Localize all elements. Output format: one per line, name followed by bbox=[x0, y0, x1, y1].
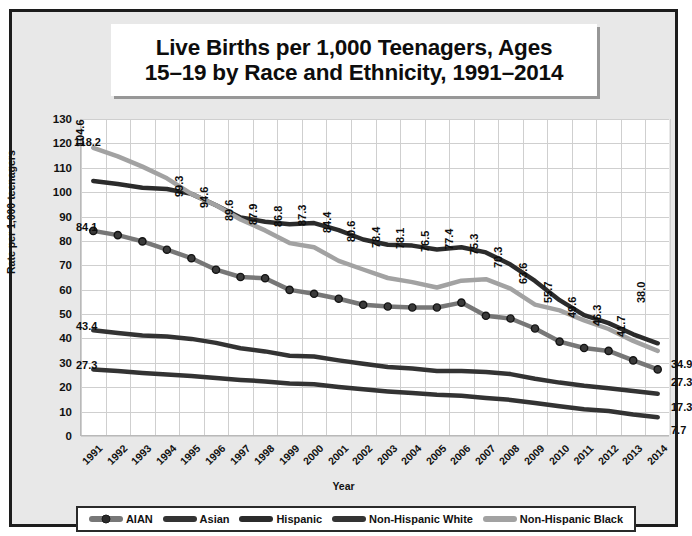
x-tick-label: 1999 bbox=[271, 442, 301, 472]
x-tick-label: 1994 bbox=[149, 442, 179, 472]
data-point-marker bbox=[605, 347, 612, 354]
legend-item-aian[interactable]: AIAN bbox=[89, 513, 153, 525]
y-tick-label: 110 bbox=[34, 162, 72, 174]
data-label-nh-white-start: 27.3 bbox=[76, 359, 97, 371]
data-point-marker bbox=[630, 357, 637, 364]
x-tick-label: 2010 bbox=[541, 442, 571, 472]
data-label-nh-black-end: 34.9 bbox=[671, 358, 692, 370]
data-label-hispanic: 78.1 bbox=[394, 227, 406, 248]
line-asian bbox=[93, 330, 657, 394]
x-tick-label: 2012 bbox=[590, 442, 620, 472]
data-label-hispanic: 80.6 bbox=[345, 221, 357, 242]
data-label-aian-end: 27.3 bbox=[671, 376, 692, 388]
data-label-hispanic: 78.4 bbox=[370, 226, 382, 247]
data-point-marker bbox=[360, 301, 367, 308]
legend-swatch bbox=[332, 516, 366, 522]
data-point-marker bbox=[507, 315, 514, 322]
y-axis-title: Rate per 1,000 teenagers bbox=[5, 150, 17, 274]
data-label-asian-start: 43.4 bbox=[76, 320, 97, 332]
y-tick-label: 10 bbox=[34, 406, 72, 418]
data-label-hispanic: 77.4 bbox=[443, 229, 455, 250]
x-tick-label: 2002 bbox=[345, 442, 375, 472]
data-point-marker bbox=[458, 299, 465, 306]
data-label-nh-black-start: 118.2 bbox=[74, 136, 101, 148]
data-point-marker bbox=[433, 304, 440, 311]
x-axis-title: Year bbox=[12, 480, 675, 492]
data-point-marker bbox=[409, 304, 416, 311]
data-label-hispanic: 87.9 bbox=[247, 203, 259, 224]
data-label-asian-end: 17.3 bbox=[671, 401, 692, 413]
data-label-hispanic: 38.0 bbox=[635, 282, 647, 303]
line-non-hispanic-white bbox=[93, 369, 657, 417]
data-point-marker bbox=[556, 338, 563, 345]
legend-item-hispanic[interactable]: Hispanic bbox=[239, 513, 322, 525]
legend-item-asian[interactable]: Asian bbox=[163, 513, 230, 525]
x-tick-label: 1993 bbox=[124, 442, 154, 472]
data-label-hispanic: 55.7 bbox=[542, 282, 554, 303]
y-tick-label: 0 bbox=[34, 430, 72, 442]
x-tick-label: 2013 bbox=[615, 442, 645, 472]
data-point-marker bbox=[114, 232, 121, 239]
data-point-marker bbox=[311, 290, 318, 297]
x-tick-label: 1998 bbox=[247, 442, 277, 472]
legend-swatch bbox=[239, 516, 273, 522]
data-point-marker bbox=[531, 325, 538, 332]
y-tick-label: 130 bbox=[34, 113, 72, 125]
data-label-hispanic: 86.8 bbox=[272, 206, 284, 227]
data-point-marker bbox=[384, 303, 391, 310]
x-tick-label: 2011 bbox=[566, 442, 596, 472]
series-lines bbox=[81, 119, 670, 436]
data-point-marker bbox=[237, 273, 244, 280]
legend-swatch bbox=[483, 516, 517, 522]
y-tick-label: 100 bbox=[34, 186, 72, 198]
data-label-hispanic: 94.6 bbox=[198, 187, 210, 208]
plot-area bbox=[80, 119, 669, 436]
chart-legend: AIANAsianHispanicNon-Hispanic WhiteNon-H… bbox=[76, 506, 636, 532]
data-point-marker bbox=[188, 255, 195, 262]
x-tick-label: 1995 bbox=[173, 442, 203, 472]
legend-label: Hispanic bbox=[276, 513, 322, 525]
data-label-hispanic: 70.3 bbox=[492, 246, 504, 267]
data-label-hispanic: 75.3 bbox=[468, 234, 480, 255]
legend-label: AIAN bbox=[126, 513, 153, 525]
data-label-hispanic: 41.7 bbox=[615, 316, 627, 337]
data-label-hispanic: 99.3 bbox=[173, 175, 185, 196]
y-tick-label: 70 bbox=[34, 259, 72, 271]
x-tick-label: 2004 bbox=[394, 442, 424, 472]
x-tick-label: 2001 bbox=[320, 442, 350, 472]
legend-item-non-hispanic-black[interactable]: Non-Hispanic Black bbox=[483, 513, 623, 525]
x-tick-label: 2007 bbox=[468, 442, 498, 472]
x-tick-label: 1997 bbox=[222, 442, 252, 472]
data-label-aian-start: 84.1 bbox=[76, 221, 97, 233]
x-tick-label: 2009 bbox=[517, 442, 547, 472]
legend-label: Non-Hispanic White bbox=[369, 513, 473, 525]
data-label-hispanic: 89.6 bbox=[223, 199, 235, 220]
y-tick-label: 80 bbox=[34, 235, 72, 247]
chart-frame: Live Births per 1,000 Teenagers, Ages 15… bbox=[9, 9, 678, 527]
x-tick-label: 2006 bbox=[443, 442, 473, 472]
y-tick-label: 20 bbox=[34, 381, 72, 393]
data-point-marker bbox=[262, 275, 269, 282]
x-tick-label: 2014 bbox=[640, 442, 670, 472]
data-point-marker bbox=[335, 295, 342, 302]
y-tick-label: 30 bbox=[34, 357, 72, 369]
data-label-hispanic: 63.6 bbox=[517, 262, 529, 283]
legend-swatch bbox=[163, 516, 197, 522]
data-label-nh-white-end: 7.7 bbox=[671, 424, 686, 436]
data-point-marker bbox=[286, 286, 293, 293]
x-tick-label: 1996 bbox=[198, 442, 228, 472]
legend-swatch bbox=[89, 516, 123, 522]
legend-item-non-hispanic-white[interactable]: Non-Hispanic White bbox=[332, 513, 473, 525]
data-point-marker bbox=[212, 266, 219, 273]
data-label-hispanic: 87.3 bbox=[296, 205, 308, 226]
y-tick-label: 60 bbox=[34, 284, 72, 296]
x-tick-label: 1991 bbox=[75, 442, 105, 472]
y-tick-label: 50 bbox=[34, 308, 72, 320]
data-label-hispanic: 84.4 bbox=[321, 212, 333, 233]
legend-marker-dot bbox=[101, 515, 110, 524]
data-label-hispanic: 46.3 bbox=[591, 305, 603, 326]
data-label-hispanic: 49.6 bbox=[566, 297, 578, 318]
data-label-hispanic: 76.5 bbox=[419, 231, 431, 252]
y-tick-label: 90 bbox=[34, 211, 72, 223]
title-line-2: 15–19 by Race and Ethnicity, 1991–2014 bbox=[145, 60, 563, 85]
